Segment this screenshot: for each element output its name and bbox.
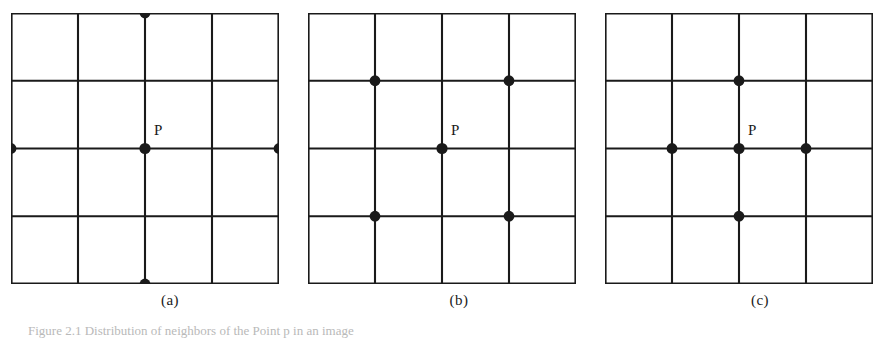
neighbor-node-dot (11, 143, 16, 154)
panel-a: P (a) (0, 0, 296, 334)
panel-c: P (c) (594, 0, 890, 334)
neighbor-node-dot (274, 143, 279, 154)
neighbor-node-dot (667, 143, 678, 154)
grid-c-svg (605, 13, 873, 284)
grid-c: P (605, 13, 873, 284)
neighbor-node-dot (140, 13, 151, 18)
neighbor-node-dot (504, 211, 515, 222)
panel-b: P (b) (297, 0, 593, 334)
neighbor-node-dot (370, 75, 381, 86)
grid-b-svg (308, 13, 576, 284)
point-label-a: P (154, 123, 162, 138)
neighbor-node-dot (734, 75, 745, 86)
panel-caption-b: (b) (297, 292, 607, 309)
center-point-dot (139, 143, 150, 154)
point-label-c: P (748, 123, 756, 138)
center-point-dot (733, 143, 744, 154)
neighbor-node-dot (140, 279, 151, 284)
grid-a: P (11, 13, 279, 284)
figure-caption: Figure 2.1 Distribution of neighbors of … (28, 323, 868, 338)
neighbor-node-dot (734, 211, 745, 222)
panel-caption-a: (a) (0, 292, 318, 309)
neighbor-node-dot (801, 143, 812, 154)
neighbor-node-dot (504, 75, 515, 86)
point-label-b: P (451, 123, 459, 138)
panel-caption-c: (c) (594, 292, 890, 309)
grid-b: P (308, 13, 576, 284)
grid-a-svg (11, 13, 279, 284)
center-point-dot (436, 143, 447, 154)
neighbor-node-dot (370, 211, 381, 222)
